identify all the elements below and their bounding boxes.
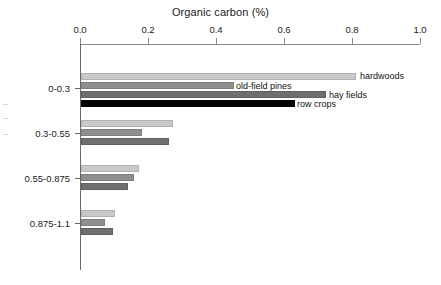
bar [81, 91, 326, 98]
bar [81, 174, 134, 181]
series-data-label: old-field pines [236, 81, 292, 91]
organic-carbon-bar-chart: Organic carbon (%) 0.00.20.40.60.81.0 0-… [0, 0, 441, 285]
x-axis-tick-label: 0.6 [277, 24, 290, 35]
top-axis-line [80, 44, 420, 45]
bar [81, 129, 142, 136]
x-axis-tick [148, 38, 149, 44]
bar [81, 120, 173, 127]
bar [81, 73, 356, 80]
bar [81, 228, 113, 235]
x-axis-tick-label: 0.4 [209, 24, 222, 35]
x-axis-tick-label: 0.2 [141, 24, 154, 35]
y-axis-tick [75, 88, 80, 89]
y-axis-tick-label: 0.875-1.1 [30, 218, 70, 229]
x-axis-tick-label: 1.0 [413, 24, 426, 35]
bar [81, 210, 115, 217]
x-axis-tick [216, 38, 217, 44]
y-axis-tick [75, 223, 80, 224]
series-data-label: row crops [297, 99, 336, 109]
x-axis-tick [420, 38, 421, 44]
edge-artifact [0, 104, 8, 236]
x-axis-tick-label: 0.8 [345, 24, 358, 35]
series-data-label: hardwoods [360, 71, 404, 81]
bar [81, 219, 105, 226]
x-axis-tick [80, 38, 81, 44]
y-axis-tick-label: 0.55-0.875 [25, 173, 70, 184]
y-axis-tick [75, 133, 80, 134]
bar [81, 165, 139, 172]
y-axis-tick-label: 0-0.3 [48, 83, 70, 94]
bar [81, 82, 234, 89]
bar [81, 100, 295, 107]
y-axis-tick [75, 178, 80, 179]
y-axis-tick-label: 0.3-0.55 [35, 128, 70, 139]
x-axis-tick-label: 0.0 [73, 24, 86, 35]
bar [81, 138, 169, 145]
x-axis-tick [284, 38, 285, 44]
bar [81, 183, 128, 190]
plot-area: 0.00.20.40.60.81.0 0-0.30.3-0.550.55-0.8… [0, 0, 441, 285]
x-axis-tick [352, 38, 353, 44]
